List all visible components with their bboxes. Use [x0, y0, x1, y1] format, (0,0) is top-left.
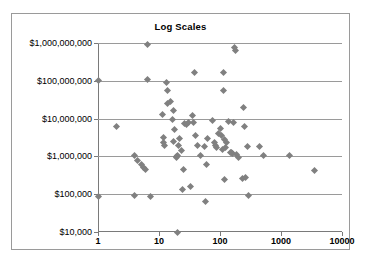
y-axis-label: $100,000,000 [37, 76, 92, 86]
x-axis-label: 1 [95, 236, 100, 246]
x-axis-label: 1000 [271, 236, 291, 246]
data-point [176, 135, 183, 142]
data-point [192, 132, 199, 139]
gridline-y [98, 43, 342, 44]
data-point [161, 142, 168, 149]
data-point [241, 123, 248, 130]
y-tick-mark [94, 119, 98, 120]
data-point [171, 126, 178, 133]
y-axis-label: $10,000,000 [42, 114, 92, 124]
data-point [204, 135, 211, 142]
data-point [220, 87, 227, 94]
data-point [180, 166, 187, 173]
data-point [244, 143, 251, 150]
data-point [201, 143, 208, 150]
data-point [169, 116, 176, 123]
data-point [202, 198, 209, 205]
data-point [170, 107, 177, 114]
data-point [242, 174, 249, 181]
gridline-y [98, 81, 342, 82]
y-axis-label: $1,000,000 [47, 151, 92, 161]
data-point [245, 191, 252, 198]
data-point [142, 166, 149, 173]
data-point [221, 176, 228, 183]
y-axis-label: $1,000,000,000 [29, 38, 92, 48]
data-point [256, 143, 263, 150]
data-point [94, 77, 101, 84]
data-point [187, 183, 194, 190]
chart-title: Log Scales [12, 21, 349, 32]
data-point [232, 47, 239, 54]
data-point [113, 123, 120, 130]
x-axis-label: 10 [154, 236, 164, 246]
data-point [203, 161, 210, 168]
data-point [193, 141, 200, 148]
chart-frame: Log Scales $10,000$100,000$1,000,000$10,… [11, 13, 350, 250]
data-point [223, 138, 230, 145]
data-point [219, 69, 226, 76]
data-point [260, 152, 267, 159]
data-point [179, 186, 186, 193]
gridline-y [98, 119, 342, 120]
data-point [94, 193, 101, 200]
data-point [159, 111, 166, 118]
data-point [311, 167, 318, 174]
data-point [164, 87, 171, 94]
data-point [286, 152, 293, 159]
data-point [197, 152, 204, 159]
data-point [240, 104, 247, 111]
y-tick-mark [94, 43, 98, 44]
scatter-plot-area: $10,000$100,000$1,000,000$10,000,000$100… [98, 43, 342, 232]
y-axis-label: $10,000 [59, 227, 92, 237]
data-point [230, 119, 237, 126]
x-axis-label: 10000 [329, 236, 354, 246]
y-tick-mark [94, 156, 98, 157]
x-axis-label: 100 [212, 236, 227, 246]
data-point [191, 69, 198, 76]
data-point [174, 228, 181, 235]
y-axis-label: $100,000 [54, 189, 92, 199]
data-point [190, 119, 197, 126]
y-axis-line [98, 43, 99, 232]
data-point [131, 191, 138, 198]
data-point [235, 154, 242, 161]
